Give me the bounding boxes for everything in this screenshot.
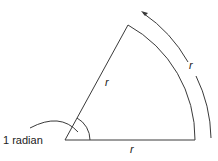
radius-lower-label: r (130, 143, 135, 155)
arrow-arc-lower (196, 76, 211, 138)
sector-arc (128, 25, 195, 140)
sector (30, 25, 195, 140)
arrow-arc-upper (143, 13, 188, 62)
angle-arc (77, 118, 90, 140)
arc-length-arrow (143, 13, 211, 138)
radian-diagram: 1 radian r r r (0, 0, 218, 161)
radius-upper (65, 25, 128, 140)
radius-upper-label: r (105, 76, 110, 88)
arc-label: r (189, 59, 194, 71)
angle-label: 1 radian (3, 134, 43, 146)
